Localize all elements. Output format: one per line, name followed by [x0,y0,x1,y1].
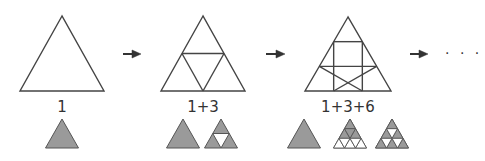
arrow-right-icon [132,50,141,58]
mini-up [345,119,356,129]
arrow-right-icon [419,50,428,58]
grid-line [182,54,203,92]
stage-label-2: 1+3 [187,100,219,115]
mini-up [387,119,398,129]
diagram: 1 1+3 1+3+6 · · · [0,0,485,161]
large-triangle-3 [305,17,391,91]
breakdown-triangle-2-1 [167,119,200,148]
triangle-sequence-diagram [0,0,485,161]
large-triangle-1 [20,16,104,91]
breakdown-triangle-1-1 [46,119,79,148]
grid-line [203,54,224,92]
breakdown-triangle-3-1 [288,119,321,148]
arrow-right-icon [276,50,285,58]
stage-label-1: 1 [57,100,67,115]
stage-label-3: 1+3+6 [321,100,375,115]
ellipsis: · · · [445,45,482,61]
